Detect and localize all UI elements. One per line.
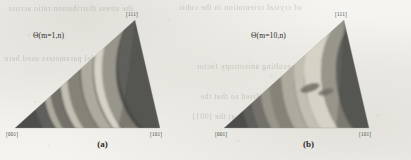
corner-label-a-bottom-left: [001] <box>6 131 18 137</box>
stereographic-triangle-b <box>206 0 411 160</box>
contour-bands-a <box>0 0 205 160</box>
corner-label-b-top: [111] <box>335 11 347 17</box>
corner-label-b-bottom-right: [101] <box>359 131 371 137</box>
contour-plot-a: Θ(m=1,n) [111] [001] [101] <box>0 0 205 160</box>
theta-label-a: Θ(m=1,n) <box>33 31 64 40</box>
stereographic-triangle-a <box>0 0 205 160</box>
contour-plot-b: Θ(m=10,n) [111] [001] [101] <box>206 0 411 160</box>
theta-label-b: Θ(m=10,n) <box>251 31 286 40</box>
panel-caption-b: (b) <box>206 139 411 149</box>
corner-label-a-top: [111] <box>126 11 138 17</box>
corner-label-b-bottom-left: [001] <box>215 131 227 137</box>
data-marker-point-a <box>34 101 36 103</box>
panel-caption-a: (a) <box>0 139 205 149</box>
contour-bands-b <box>206 0 411 160</box>
figure-panel-b: Θ(m=10,n) [111] [001] [101] (b) <box>206 0 411 160</box>
figure-panel-a: Θ(m=1,n) [111] [001] [101] (a) <box>0 0 205 160</box>
corner-label-a-bottom-right: [101] <box>150 131 162 137</box>
